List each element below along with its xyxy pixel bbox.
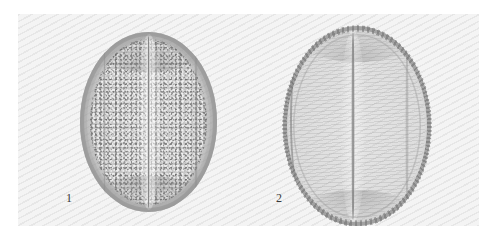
figure-plate: 1 2 <box>0 0 499 241</box>
figure-number-1: 1 <box>66 192 72 204</box>
micrograph-panel: 1 2 <box>18 14 479 226</box>
pollen-grain-2 <box>283 26 431 226</box>
pollen-grain-1 <box>80 32 217 212</box>
grain-1-wall <box>80 32 217 212</box>
figure-number-2: 2 <box>276 192 282 204</box>
grain-2-beaded-rim <box>282 25 432 226</box>
